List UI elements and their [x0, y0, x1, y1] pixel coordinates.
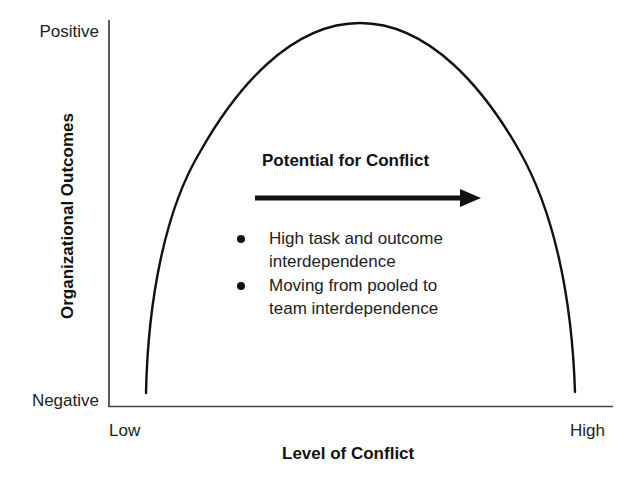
bullet-text-line: team interdependence: [269, 297, 526, 320]
x-axis-title: Level of Conflict: [282, 444, 414, 464]
y-tick-positive: Positive: [39, 22, 99, 42]
bullet-text-line: Moving from pooled to: [269, 274, 526, 297]
bullet-item: Moving from pooled to team interdependen…: [236, 274, 526, 320]
annotation-title: Potential for Conflict: [262, 151, 429, 171]
bullet-text-line: interdependence: [269, 250, 526, 273]
bullet-dot-icon: [237, 282, 245, 290]
y-tick-negative: Negative: [32, 391, 99, 411]
outcome-curve: [146, 23, 575, 393]
bullet-item: High task and outcome interdependence: [236, 227, 526, 273]
x-tick-high: High: [570, 421, 605, 441]
bullet-dot-icon: [237, 235, 245, 243]
annotation-bullet-list: High task and outcome interdependence Mo…: [236, 227, 526, 321]
potential-arrow-head: [460, 189, 481, 207]
x-tick-low: Low: [109, 421, 140, 441]
y-axis-title: Organizational Outcomes: [58, 113, 78, 319]
bullet-text-line: High task and outcome: [269, 227, 526, 250]
